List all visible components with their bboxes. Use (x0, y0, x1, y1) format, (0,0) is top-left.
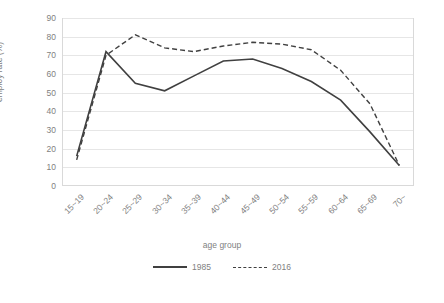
legend-swatch-solid (153, 266, 187, 268)
legend-label-1985: 1985 (192, 262, 211, 272)
legend-item-2016: 2016 (233, 262, 291, 272)
series-lines (0, 0, 444, 303)
employment-rate-line-chart: 0102030405060708090 employ rate (%) 15~1… (0, 0, 444, 303)
series-line-2016 (77, 35, 400, 166)
legend-swatch-dashed (233, 267, 267, 268)
series-line-1985 (77, 52, 400, 166)
chart-legend: 1985 2016 (0, 262, 444, 272)
legend-item-1985: 1985 (153, 262, 211, 272)
legend-label-2016: 2016 (272, 262, 291, 272)
